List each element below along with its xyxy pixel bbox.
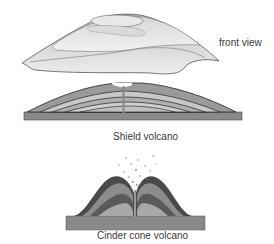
front-view-label: front view (219, 37, 262, 48)
cinder-cone-caption: Cinder cone volcano (97, 230, 188, 241)
shield-volcano-caption: Shield volcano (113, 131, 178, 142)
shield-front-view-illustration (22, 14, 219, 74)
cinder-cone-illustration (66, 155, 205, 230)
shield-side-view-illustration (24, 83, 242, 120)
